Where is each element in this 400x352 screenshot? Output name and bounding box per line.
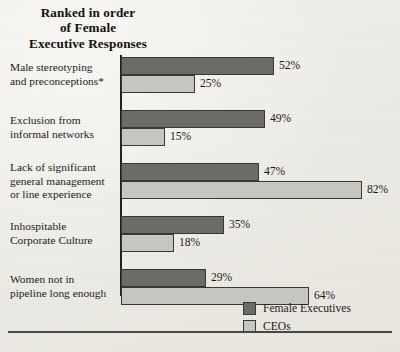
category-label-0-line-2: and preconceptions* bbox=[10, 75, 122, 89]
bar-4-series-0 bbox=[121, 269, 206, 287]
bar-value-2-series-0: 47% bbox=[264, 163, 285, 181]
legend-swatch-icon-female-executives bbox=[243, 302, 256, 315]
category-label-2-line-3: or line experience bbox=[10, 188, 122, 202]
category-label-4-line-1: Women not in bbox=[10, 273, 122, 287]
bar-value-0-series-0: 52% bbox=[279, 57, 300, 75]
bar-value-3-series-1: 18% bbox=[179, 234, 200, 252]
bar-1-series-1 bbox=[121, 128, 165, 146]
category-label-2: Lack of significant general management o… bbox=[10, 161, 122, 202]
bar-3-series-0 bbox=[121, 216, 224, 234]
category-label-3-line-2: Corporate Culture bbox=[10, 234, 122, 248]
chart-page: Ranked in order of Female Executive Resp… bbox=[0, 0, 400, 352]
category-label-1-line-2: informal networks bbox=[10, 128, 122, 142]
bar-value-3-series-0: 35% bbox=[229, 216, 250, 234]
bar-0-series-0 bbox=[121, 57, 274, 75]
category-label-4-line-2: pipeline long enough bbox=[10, 287, 122, 301]
bar-2-series-0 bbox=[121, 163, 259, 181]
bar-value-2-series-1: 82% bbox=[367, 181, 388, 199]
category-label-3: Inhospitable Corporate Culture bbox=[10, 220, 122, 247]
bar-3-series-1 bbox=[121, 234, 174, 252]
bar-value-1-series-0: 49% bbox=[270, 110, 291, 128]
category-label-4: Women not in pipeline long enough bbox=[10, 273, 122, 300]
category-label-0: Male stereotyping and preconceptions* bbox=[10, 61, 122, 88]
category-label-2-line-2: general management bbox=[10, 175, 122, 189]
category-label-0-line-1: Male stereotyping bbox=[10, 61, 122, 75]
category-label-2-line-1: Lack of significant bbox=[10, 161, 122, 175]
bar-2-series-1 bbox=[121, 181, 362, 199]
bar-value-1-series-1: 15% bbox=[170, 128, 191, 146]
category-label-1-line-1: Exclusion from bbox=[10, 114, 122, 128]
category-label-1: Exclusion from informal networks bbox=[10, 114, 122, 141]
bar-1-series-0 bbox=[121, 110, 265, 128]
legend-label-female-executives: Female Executives bbox=[263, 302, 351, 315]
bar-value-4-series-0: 29% bbox=[211, 269, 232, 287]
category-label-3-line-1: Inhospitable bbox=[10, 220, 122, 234]
bar-value-0-series-1: 25% bbox=[200, 75, 221, 93]
bottom-divider bbox=[8, 331, 392, 333]
legend-item-female-executives: Female Executives bbox=[243, 300, 351, 316]
bar-0-series-1 bbox=[121, 75, 195, 93]
